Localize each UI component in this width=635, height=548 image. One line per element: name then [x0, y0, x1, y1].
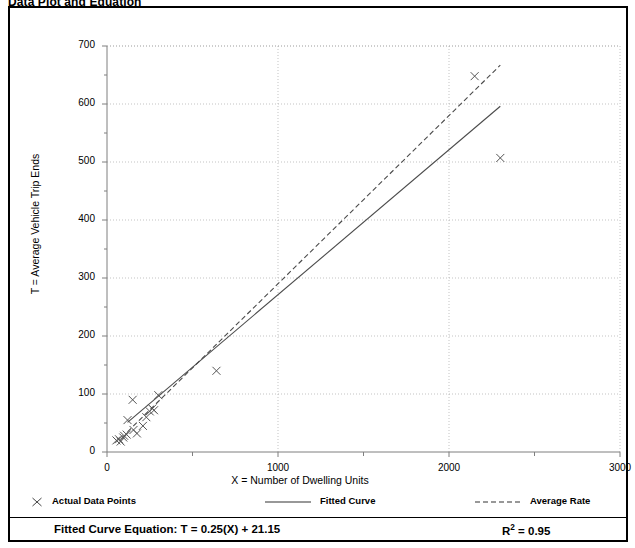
average-rate-line — [128, 65, 501, 432]
y-tick-label: 500 — [55, 155, 95, 166]
legend-item-fitted-curve: Fitted Curve — [264, 494, 375, 506]
data-point-marker — [496, 154, 504, 162]
legend-label-fitted-curve: Fitted Curve — [320, 495, 375, 506]
legend-label-average-rate: Average Rate — [530, 495, 590, 506]
x-axis-title: X = Number of Dwelling Units — [150, 474, 450, 486]
x-tick-label: 2000 — [424, 462, 474, 473]
chart-svg — [10, 8, 630, 494]
dashed-line-icon — [474, 494, 522, 506]
y-tick-label: 300 — [55, 271, 95, 282]
y-tick-label: 100 — [55, 387, 95, 398]
fitted-curve-equation: Fitted Curve Equation: T = 0.25(X) + 21.… — [54, 523, 280, 535]
x-tick-label: 1000 — [253, 462, 303, 473]
data-point-marker — [139, 422, 147, 430]
y-tick-label: 400 — [55, 213, 95, 224]
y-tick-label: 700 — [55, 39, 95, 50]
chart-plot-area: T = Average Vehicle Trip Ends X = Number… — [10, 8, 630, 494]
r-squared-value: R2 = 0.95 — [502, 523, 550, 537]
x-marker-icon — [30, 494, 44, 506]
y-tick-label: 200 — [55, 329, 95, 340]
equation-row: Fitted Curve Equation: T = 0.25(X) + 21.… — [10, 520, 626, 542]
data-point-marker — [123, 431, 131, 439]
legend-item-actual-data-points: Actual Data Points — [30, 494, 136, 506]
r-squared-number: = 0.95 — [515, 525, 551, 537]
legend-item-average-rate: Average Rate — [474, 494, 590, 506]
y-axis-title: T = Average Vehicle Trip Ends — [29, 129, 41, 319]
x-tick-label: 3000 — [595, 462, 635, 473]
y-tick-label: 600 — [55, 97, 95, 108]
data-point-marker — [129, 396, 137, 404]
data-point-marker — [212, 367, 220, 375]
solid-line-icon — [264, 494, 312, 506]
y-tick-label: 0 — [55, 445, 95, 456]
legend-label-actual-data-points: Actual Data Points — [52, 495, 136, 506]
x-tick-label: 0 — [82, 462, 132, 473]
data-point-marker — [133, 429, 141, 437]
legend-divider — [10, 517, 626, 518]
fitted-curve-line — [128, 106, 501, 422]
chart-legend: Actual Data Points Fitted Curve Average … — [10, 490, 626, 516]
chart-frame: T = Average Vehicle Trip Ends X = Number… — [8, 6, 628, 542]
data-point-marker — [471, 72, 479, 80]
